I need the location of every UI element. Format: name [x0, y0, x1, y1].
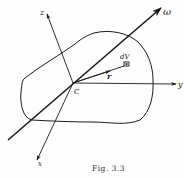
x-axis-label: x	[38, 160, 42, 168]
y-axis-line	[73, 83, 176, 84]
rigid-body-diagram: z y x ω C r dV Fig. 3.3	[0, 0, 184, 178]
figure-caption: Fig. 3.3	[92, 164, 125, 173]
r-label: r	[107, 71, 112, 81]
y-axis-label: y	[177, 80, 183, 89]
z-axis-label: z	[39, 8, 45, 17]
origin-label: C	[74, 88, 80, 96]
dv-label: dV	[120, 53, 130, 61]
figure-canvas: z y x ω C r dV Fig. 3.3	[0, 0, 184, 178]
body-outline	[21, 31, 153, 123]
r-vector-arrowhead	[73, 71, 110, 83]
omega-label: ω	[163, 6, 171, 17]
